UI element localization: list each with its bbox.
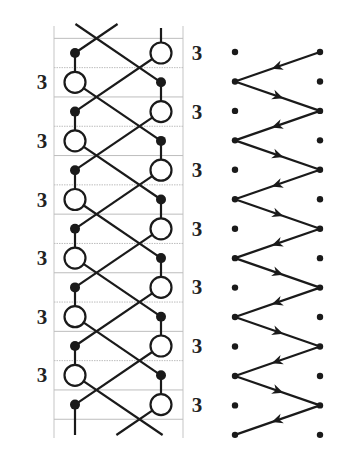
- open-circle-node: [65, 306, 86, 327]
- open-circle-node: [151, 277, 172, 298]
- figure-canvas: 3333333333333: [0, 0, 340, 466]
- strand-segment: [75, 53, 161, 112]
- strand-segment: [75, 258, 161, 317]
- strand-segment: [75, 287, 161, 346]
- grid-dot: [232, 314, 238, 320]
- row-label-right: 3: [192, 217, 203, 241]
- grid-dot: [232, 108, 238, 114]
- open-circle-node: [151, 43, 172, 64]
- filled-dot-node: [70, 224, 80, 234]
- strand-segment: [75, 112, 161, 171]
- grid-dot: [232, 49, 238, 55]
- strand-segment: [75, 200, 161, 259]
- grid-dot: [317, 373, 323, 379]
- grid-dot: [317, 255, 323, 261]
- row-label-right: 3: [192, 41, 203, 65]
- open-circle-node: [151, 160, 172, 181]
- grid-dot: [232, 255, 238, 261]
- grid-dot: [317, 226, 323, 232]
- row-label-left: 3: [37, 363, 48, 387]
- grid-dot: [317, 78, 323, 84]
- filled-dot-node: [156, 136, 166, 146]
- row-label-left: 3: [37, 188, 48, 212]
- strand-segment: [75, 229, 161, 288]
- strand-segment: [75, 82, 161, 141]
- open-circle-node: [151, 336, 172, 357]
- row-label-right: 3: [192, 393, 203, 417]
- open-circle-node: [151, 218, 172, 239]
- row-label-right: 3: [192, 275, 203, 299]
- filled-dot-node: [70, 165, 80, 175]
- grid-dot: [317, 49, 323, 55]
- strand-segment: [75, 141, 161, 200]
- open-circle-node: [65, 365, 86, 386]
- grid-dot: [317, 343, 323, 349]
- strand-segment: [75, 346, 161, 405]
- open-circle-node: [65, 72, 86, 93]
- strand-segment: [75, 170, 161, 229]
- grid-dot: [317, 137, 323, 143]
- grid-dot: [317, 108, 323, 114]
- open-circle-node: [65, 248, 86, 269]
- open-circle-node: [151, 394, 172, 415]
- row-label-left: 3: [37, 246, 48, 270]
- grid-dot: [232, 373, 238, 379]
- grid-dot: [232, 167, 238, 173]
- grid-dot: [232, 226, 238, 232]
- row-label-right: 3: [192, 334, 203, 358]
- strand-segment: [75, 24, 161, 82]
- filled-dot-node: [156, 253, 166, 263]
- braid-diagram: [54, 24, 183, 438]
- filled-dot-node: [70, 107, 80, 117]
- grid-dot: [232, 284, 238, 290]
- filled-dot-node: [156, 195, 166, 205]
- grid-dot: [317, 432, 323, 438]
- row-label-left: 3: [37, 305, 48, 329]
- grid-dot: [317, 196, 323, 202]
- grid-dot: [317, 167, 323, 173]
- grid-dot: [317, 402, 323, 408]
- grid-dot: [232, 432, 238, 438]
- open-circle-node: [65, 189, 86, 210]
- row-label-right: 3: [192, 100, 203, 124]
- row-label-left: 3: [37, 70, 48, 94]
- filled-dot-node: [70, 341, 80, 351]
- filled-dot-node: [156, 370, 166, 380]
- open-circle-node: [65, 130, 86, 151]
- strand-segment: [75, 317, 161, 376]
- filled-dot-node: [70, 400, 80, 410]
- zigzag-dot-diagram: [232, 49, 323, 438]
- grid-dot: [317, 284, 323, 290]
- filled-dot-node: [156, 77, 166, 87]
- row-label-right: 3: [192, 158, 203, 182]
- grid-dot: [232, 402, 238, 408]
- filled-dot-node: [156, 312, 166, 322]
- grid-dot: [232, 78, 238, 84]
- grid-dot: [232, 196, 238, 202]
- open-circle-node: [151, 101, 172, 122]
- grid-dot: [232, 343, 238, 349]
- row-label-left: 3: [37, 129, 48, 153]
- grid-dot: [232, 137, 238, 143]
- grid-dot: [317, 314, 323, 320]
- filled-dot-node: [70, 48, 80, 58]
- filled-dot-node: [70, 282, 80, 292]
